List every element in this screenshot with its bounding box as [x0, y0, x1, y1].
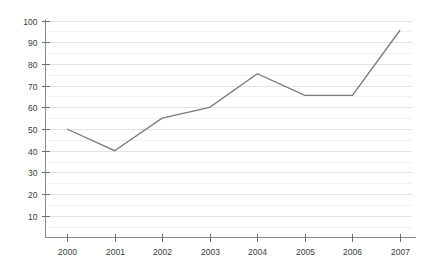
y-tick-label: 10 [28, 212, 38, 222]
x-axis-tick-labels: 20002001200220032004200520062007 [58, 247, 410, 257]
y-tick-label: 50 [28, 125, 38, 135]
x-tick-label: 2003 [201, 247, 220, 257]
x-tick-label: 2005 [296, 247, 315, 257]
y-tick-label: 40 [28, 147, 38, 157]
x-tick-label: 2001 [106, 247, 125, 257]
y-tick-label: 30 [28, 168, 38, 178]
chart-canvas: 102030405060708090100 200020012002200320… [0, 0, 433, 270]
y-tick-label: 70 [28, 82, 38, 92]
x-tick-label: 2002 [153, 247, 172, 257]
x-tick-label: 2000 [58, 247, 77, 257]
y-axis-tick-labels: 102030405060708090100 [23, 17, 37, 222]
data-series-line [67, 30, 400, 150]
y-tick-label: 60 [28, 103, 38, 113]
line-chart: 102030405060708090100 200020012002200320… [0, 0, 433, 270]
x-tick-label: 2006 [343, 247, 362, 257]
y-tick-label: 20 [28, 190, 38, 200]
series-polyline [67, 30, 400, 150]
x-tick-label: 2007 [391, 247, 410, 257]
chart-axes [46, 19, 417, 238]
y-tick-label: 90 [28, 38, 38, 48]
y-tick-label: 100 [23, 17, 37, 27]
y-tick-label: 80 [28, 60, 38, 70]
x-tick-label: 2004 [248, 247, 267, 257]
